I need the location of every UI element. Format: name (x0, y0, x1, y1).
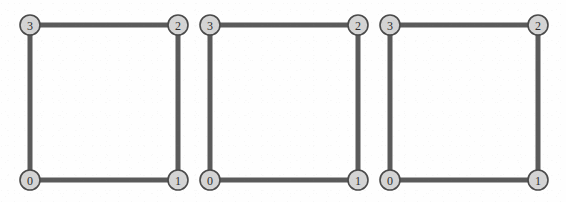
node-label: 2 (175, 19, 181, 33)
node-label: 1 (355, 174, 361, 188)
node-label: 0 (207, 174, 213, 188)
graph-node-1[interactable]: 1 (528, 170, 548, 190)
node-label: 3 (207, 19, 213, 33)
graph-node-1[interactable]: 1 (348, 170, 368, 190)
graph-node-3[interactable]: 3 (20, 15, 40, 35)
graph-canvas: 012301230123 (0, 0, 566, 202)
node-label: 2 (535, 19, 541, 33)
node-label: 1 (535, 174, 541, 188)
graph-node-2[interactable]: 2 (168, 15, 188, 35)
node-label: 2 (355, 19, 361, 33)
node-label: 1 (175, 174, 181, 188)
graph-node-1[interactable]: 1 (168, 170, 188, 190)
node-label: 3 (27, 19, 33, 33)
node-label: 0 (387, 174, 393, 188)
graph-panel-3: 0123 (380, 15, 548, 190)
graph-panel-2: 0123 (200, 15, 368, 190)
node-label: 3 (387, 19, 393, 33)
graph-node-2[interactable]: 2 (528, 15, 548, 35)
graph-figure: 012301230123 (0, 0, 566, 202)
graph-panel-1: 0123 (20, 15, 188, 190)
graph-node-3[interactable]: 3 (380, 15, 400, 35)
graph-node-0[interactable]: 0 (200, 170, 220, 190)
graph-node-3[interactable]: 3 (200, 15, 220, 35)
graph-node-0[interactable]: 0 (20, 170, 40, 190)
graph-node-0[interactable]: 0 (380, 170, 400, 190)
graph-node-2[interactable]: 2 (348, 15, 368, 35)
node-label: 0 (27, 174, 33, 188)
